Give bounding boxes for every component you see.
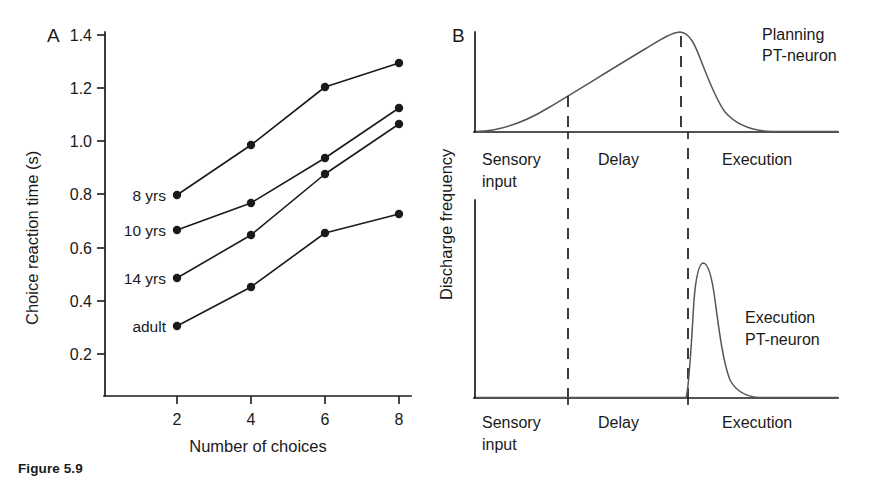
panel-b-top-phase-sensory-line2: input bbox=[482, 173, 517, 190]
panel-a-series-label-14yrs: 14 yrs bbox=[124, 270, 166, 287]
figure-caption: Figure 5.9 bbox=[18, 461, 83, 476]
panel-b-top-neuron-label-line2: PT-neuron bbox=[762, 47, 837, 64]
panel-a-x-tick-label: 8 bbox=[395, 411, 404, 428]
panel-b: B Discharge frequency Planning PT-neuron bbox=[437, 25, 838, 453]
panel-a-series-label-10yrs: 10 yrs bbox=[124, 222, 166, 239]
panel-a-y-tick-labels: 1.4 1.2 1.0 0.8 0.6 0.4 0.2 bbox=[70, 27, 92, 363]
panel-a-y-tick-label: 0.2 bbox=[70, 346, 92, 363]
figure-svg: A Choice reaction time (s) 1.4 1.2 bbox=[0, 0, 880, 490]
panel-b-top-neuron-label-line1: Planning bbox=[762, 26, 824, 43]
panel-b-top-phase-delay: Delay bbox=[598, 151, 639, 168]
panel-a-letter: A bbox=[47, 25, 60, 46]
panel-a-x-tick-label: 6 bbox=[321, 411, 330, 428]
panel-b-bottom-phase-labels: Sensory input Delay Execution bbox=[482, 414, 792, 453]
panel-b-top-subplot: Planning PT-neuron bbox=[474, 26, 838, 139]
panel-a-series-adult: adult bbox=[132, 210, 403, 335]
panel-a-series-8yrs: 8 yrs bbox=[132, 59, 403, 204]
panel-b-bottom-neuron-label-line1: Execution bbox=[745, 309, 815, 326]
panel-b-letter: B bbox=[452, 25, 465, 46]
panel-a-x-ticks bbox=[177, 396, 399, 404]
panel-b-bottom-neuron-label-line2: PT-neuron bbox=[745, 331, 820, 348]
panel-b-top-phase-labels: Sensory input Delay Execution bbox=[482, 151, 792, 190]
figure-container: A Choice reaction time (s) 1.4 1.2 bbox=[0, 0, 880, 490]
panel-a-x-tick-label: 4 bbox=[247, 411, 256, 428]
panel-b-bottom-phase-sensory-line1: Sensory bbox=[482, 414, 541, 431]
panel-a-series-label-adult: adult bbox=[132, 318, 166, 335]
panel-b-bottom-phase-delay: Delay bbox=[598, 414, 639, 431]
panel-a-y-ticks bbox=[97, 35, 105, 354]
panel-b-top-phase-execution: Execution bbox=[722, 151, 792, 168]
panel-a-y-tick-label: 1.0 bbox=[70, 133, 92, 150]
panel-b-bottom-phase-execution: Execution bbox=[722, 414, 792, 431]
panel-a-x-tick-labels: 2 4 6 8 bbox=[173, 411, 404, 428]
panel-a-y-axis-title: Choice reaction time (s) bbox=[23, 151, 41, 325]
panel-a-y-tick-label: 1.2 bbox=[70, 80, 92, 97]
panel-a-y-tick-label: 0.8 bbox=[70, 186, 92, 203]
panel-a-y-tick-label: 1.4 bbox=[70, 27, 92, 44]
panel-b-bottom-subplot: Execution PT-neuron bbox=[474, 200, 838, 405]
panel-b-bottom-phase-sensory-line2: input bbox=[482, 436, 517, 453]
panel-a-y-tick-label: 0.6 bbox=[70, 240, 92, 257]
panel-a-x-tick-label: 2 bbox=[173, 411, 182, 428]
panel-b-y-axis-title: Discharge frequency bbox=[437, 148, 455, 300]
panel-a-y-tick-label: 0.4 bbox=[70, 293, 92, 310]
panel-a-x-axis-title: Number of choices bbox=[189, 437, 327, 455]
panel-b-top-phase-sensory-line1: Sensory bbox=[482, 151, 541, 168]
panel-a-series-10yrs: 10 yrs bbox=[124, 104, 403, 239]
panel-a: A Choice reaction time (s) 1.4 1.2 bbox=[23, 25, 411, 455]
panel-a-series-label-8yrs: 8 yrs bbox=[132, 187, 166, 204]
